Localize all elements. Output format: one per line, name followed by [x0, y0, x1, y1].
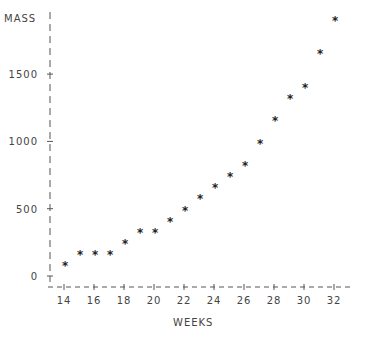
- data-point: *: [106, 248, 113, 262]
- x-tick-label: 28: [267, 295, 282, 306]
- x-tick-label: 30: [297, 295, 312, 306]
- data-point: *: [271, 114, 278, 128]
- data-point: *: [226, 170, 233, 184]
- x-tick-label: 16: [87, 295, 102, 306]
- data-point: *: [181, 204, 188, 218]
- x-tick-label: 14: [57, 295, 72, 306]
- x-axis-label: WEEKS: [173, 317, 213, 328]
- axes: [48, 12, 352, 287]
- data-point: *: [121, 237, 128, 251]
- x-tick-label: 22: [177, 295, 192, 306]
- data-point: *: [166, 215, 173, 229]
- x-tick-label: 26: [237, 295, 252, 306]
- y-ticks: 050010001500: [9, 69, 53, 282]
- data-point: *: [286, 92, 293, 106]
- data-point: *: [301, 81, 308, 95]
- data-point: *: [211, 181, 218, 195]
- y-tick-label: 1500: [9, 69, 38, 80]
- data-point: *: [136, 226, 143, 240]
- x-tick-label: 18: [117, 295, 132, 306]
- data-point: *: [76, 248, 83, 262]
- data-point: *: [151, 226, 158, 240]
- x-tick-label: 32: [327, 295, 342, 306]
- data-point: *: [61, 259, 68, 273]
- data-point: *: [91, 248, 98, 262]
- data-point: *: [256, 137, 263, 151]
- scatter-chart: MASS WEEKS 050010001500 1416182022242628…: [0, 0, 365, 338]
- x-tick-label: 24: [207, 295, 222, 306]
- data-point: *: [241, 159, 248, 173]
- data-point: *: [196, 192, 203, 206]
- data-points: *******************: [61, 14, 338, 273]
- x-ticks: 14161820222426283032: [57, 284, 342, 306]
- data-point: *: [331, 14, 338, 28]
- x-tick-label: 20: [147, 295, 162, 306]
- y-tick-label: 1000: [9, 136, 38, 147]
- data-point: *: [316, 47, 323, 61]
- y-axis-label: MASS: [4, 13, 36, 24]
- y-tick-label: 0: [31, 271, 38, 282]
- y-tick-label: 500: [16, 204, 38, 215]
